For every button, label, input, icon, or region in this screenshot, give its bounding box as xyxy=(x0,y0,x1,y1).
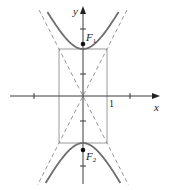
focus-f2-label: F2 xyxy=(85,150,97,164)
focus-f1-label: F1 xyxy=(85,31,97,45)
asymptote-line-negative xyxy=(39,10,128,185)
hyperbola-diagram: y x 1 F1 F2 xyxy=(0,0,170,190)
y-axis-arrow-icon xyxy=(80,6,86,14)
focus-f2-point xyxy=(81,148,86,153)
x-axis-arrow-icon xyxy=(152,93,160,99)
x-axis-label: x xyxy=(153,101,159,113)
focus-f1-point xyxy=(81,42,86,47)
x-tick-label-one: 1 xyxy=(109,98,114,109)
y-axis-label: y xyxy=(72,5,78,17)
